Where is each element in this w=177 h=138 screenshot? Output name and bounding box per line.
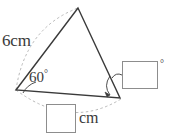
leader-line-angle-box	[112, 74, 122, 78]
answer-box-length[interactable]	[46, 104, 76, 133]
unit-label-cm: cm	[79, 110, 99, 126]
side-length-label-6cm: 6cm	[2, 32, 31, 49]
angle-label-60: 60°	[29, 69, 48, 85]
angle-label-60-value: 60	[29, 69, 44, 85]
angle-arc-right	[107, 76, 111, 95]
geometry-diagram-canvas: 6cm 60° ° cm	[0, 0, 177, 138]
degree-symbol-answer-icon: °	[160, 59, 164, 69]
answer-box-angle[interactable]	[122, 61, 158, 89]
degree-symbol-icon: °	[44, 68, 48, 79]
